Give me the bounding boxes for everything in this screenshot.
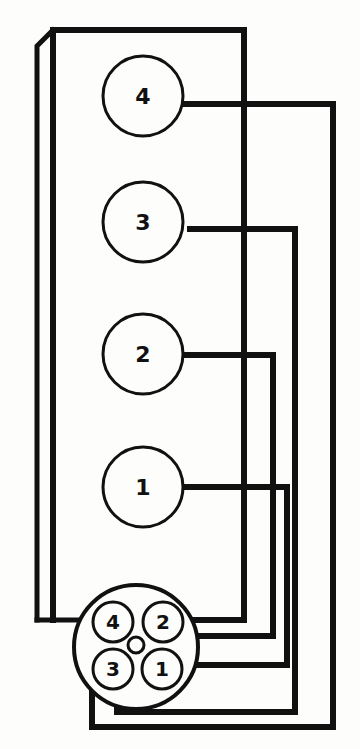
cylinder-3: 3	[103, 182, 183, 262]
terminal-label: 2	[156, 610, 170, 634]
cylinder-label: 3	[135, 210, 150, 235]
cylinder-4: 4	[103, 56, 183, 136]
distributor-terminal-1: 1	[142, 649, 182, 689]
cylinder-label: 2	[135, 342, 150, 367]
diagram-canvas: 4 3 2 1 4 2 3	[0, 0, 360, 749]
terminal-label: 4	[106, 610, 120, 634]
cylinder-1: 1	[103, 447, 183, 527]
rotor-center	[128, 637, 144, 653]
cylinder-label: 4	[135, 84, 150, 109]
terminal-label: 3	[106, 657, 120, 681]
distributor-terminal-2: 2	[143, 602, 183, 642]
cylinder-2: 2	[103, 314, 183, 394]
cylinder-label: 1	[135, 475, 150, 500]
distributor-cap: 4 2 3 1	[74, 585, 198, 709]
terminal-label: 1	[155, 657, 169, 681]
distributor-terminal-4: 4	[93, 602, 133, 642]
wire-cylinder-2	[184, 355, 273, 636]
ignition-wiring-diagram: 4 3 2 1 4 2 3	[0, 0, 360, 749]
distributor-terminal-3: 3	[93, 649, 133, 689]
